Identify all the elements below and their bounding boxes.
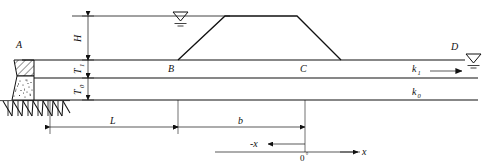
label-permeability-k1-sub: 1 [418,69,421,76]
label-axis-x-positive: x [361,146,367,157]
label-thickness-t0-base: T [72,88,83,95]
label-point-c: C [300,63,307,74]
water-level-symbol-downstream [466,54,481,68]
label-point-a: A [15,39,23,50]
figure-canvas: A B C D H T 1 T 0 k 1 k 0 L b -x x 0 ° [0,0,491,162]
label-point-b: B [168,63,174,74]
bedrock-hatch-icon [0,101,70,116]
label-permeability-k0: k 0 [412,86,422,99]
label-point-d: D [450,41,459,52]
label-thickness-t0-sub: 0 [78,84,85,88]
stippled-block-icon [12,76,34,100]
label-height-h: H [72,34,83,43]
label-permeability-k0-base: k [412,86,417,97]
hatched-block-icon [14,60,34,76]
label-dim-b: b [238,115,243,126]
label-thickness-t1-sub: 1 [78,64,85,67]
label-origin-mark: ° [306,151,309,158]
label-dim-l: L [109,115,116,126]
label-origin: 0 ° [300,151,309,162]
trapezoid-embankment-icon [178,16,341,60]
label-thickness-t0: T 0 [72,84,85,95]
label-axis-x-negative: -x [250,138,258,149]
label-thickness-t1-base: T [72,67,83,74]
label-permeability-k0-sub: 0 [418,92,422,99]
label-origin-value: 0 [300,153,305,162]
label-permeability-k1-base: k [412,63,417,74]
label-thickness-t1: T 1 [72,64,85,74]
label-permeability-k1: k 1 [412,63,421,76]
water-level-symbol-upstream [173,12,188,26]
x-axis [215,134,360,152]
cross-section-diagram: A B C D H T 1 T 0 k 1 k 0 L b -x x 0 ° [0,0,491,162]
horizontal-dimension-chain [50,100,305,134]
